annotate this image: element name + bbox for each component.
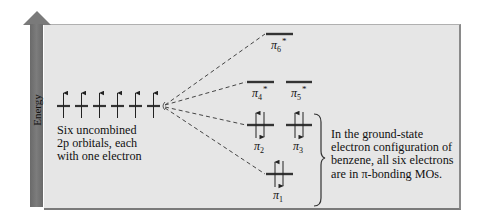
- caption-line: with one electron: [57, 150, 142, 163]
- label-pi4: π4*: [252, 84, 268, 102]
- label-pi2: π2: [254, 139, 264, 155]
- label-pi3: π3: [293, 139, 303, 155]
- mo-diagram: Energy: [0, 0, 483, 217]
- atomic-orbitals-caption: Six uncombined 2p orbitals, each with on…: [57, 124, 142, 164]
- caption-line: benzene, all six electrons: [331, 154, 454, 167]
- orbital-drawing: [0, 0, 483, 217]
- caption-line: are in π-bonding MOs.: [331, 168, 454, 181]
- curly-brace: [314, 114, 325, 206]
- correlation-lines: [165, 34, 265, 174]
- ground-state-caption: In the ground-state electron configurati…: [331, 128, 454, 181]
- combine-point: [163, 102, 165, 110]
- label-pi5: π5*: [291, 84, 307, 102]
- label-pi1: π1: [273, 188, 283, 204]
- label-pi6: π6*: [271, 36, 287, 54]
